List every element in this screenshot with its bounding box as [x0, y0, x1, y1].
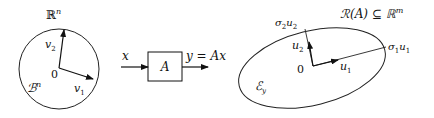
unit-ball-label: ℬn [27, 80, 41, 95]
ellipse-label: ℰy [255, 79, 267, 95]
v1-arrow [59, 68, 93, 79]
u2-arrow [309, 42, 313, 66]
output-label: y = Ax [185, 49, 226, 63]
u1-arrow [313, 60, 338, 66]
block-diagram-group: x A y = Ax [121, 49, 226, 81]
image-ellipse [230, 14, 393, 118]
range-origin-label: 0 [297, 63, 304, 76]
u1-label: u1 [340, 60, 352, 75]
v1-label: v1 [74, 82, 85, 97]
range-space-group: ℛ(A) ⊆ ℝm σ2u2 σ1u1 u2 u1 0 ℰy [230, 6, 410, 118]
range-space-label: ℛ(A) ⊆ ℝm [340, 6, 404, 21]
sigma1-u1-label: σ1u1 [388, 41, 410, 55]
system-label: A [160, 60, 170, 74]
unit-ball-circle [19, 29, 99, 109]
domain-space-label: ℝn [46, 7, 61, 22]
v2-label: v2 [45, 38, 56, 53]
v2-arrow [59, 30, 64, 68]
domain-origin-label: 0 [51, 68, 58, 81]
svd-mapping-diagram: ℝn 0 v2 v1 ℬn x A y = Ax ℛ(A) ⊆ ℝm σ2u2 [0, 0, 434, 118]
domain-space-group: ℝn 0 v2 v1 ℬn [19, 7, 99, 109]
u2-label: u2 [292, 39, 304, 54]
input-label: x [122, 49, 129, 63]
sigma2-u2-label: σ2u2 [275, 17, 297, 31]
diagram-canvas: ℝn 0 v2 v1 ℬn x A y = Ax ℛ(A) ⊆ ℝm σ2u2 [0, 0, 434, 118]
